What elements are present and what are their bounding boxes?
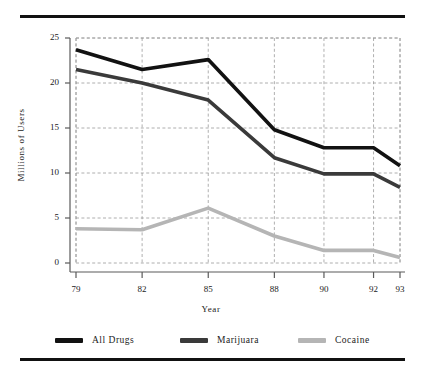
series-lines xyxy=(76,50,400,258)
x-axis-tick-label: 92 xyxy=(362,284,386,294)
legend-label: Cocaine xyxy=(335,335,370,345)
x-axis-tick-label: 85 xyxy=(196,284,220,294)
series-line-marijuara xyxy=(76,70,400,188)
x-axis-tick-label: 82 xyxy=(130,284,154,294)
legend-swatch-icon xyxy=(55,338,83,343)
y-axis-tick-label: 0 xyxy=(37,257,59,267)
chart-legend: All DrugsMarijuaraCocaine xyxy=(55,330,385,350)
series-line-cocaine xyxy=(76,208,400,258)
legend-label: All Drugs xyxy=(92,335,134,345)
x-axis-tick-label: 88 xyxy=(262,284,286,294)
x-axis-tick-label: 90 xyxy=(312,284,336,294)
y-axis-title: Millions of Users xyxy=(16,95,26,195)
y-axis-tick-label: 10 xyxy=(37,167,59,177)
y-axis-tick-label: 25 xyxy=(37,32,59,42)
legend-item-cocaine[interactable]: Cocaine xyxy=(298,330,370,350)
legend-item-all-drugs[interactable]: All Drugs xyxy=(55,330,134,350)
y-axis-tick-label: 15 xyxy=(37,122,59,132)
y-axis-tick-label: 20 xyxy=(37,77,59,87)
legend-swatch-icon xyxy=(180,338,208,343)
axis-lines xyxy=(70,38,405,272)
series-line-all-drugs xyxy=(76,50,400,166)
x-axis-tick-label: 93 xyxy=(388,284,412,294)
line-chart-plot xyxy=(0,0,422,374)
chart-figure: Millions of Users Year 0510152025 798285… xyxy=(0,0,422,374)
y-axis-tick-label: 5 xyxy=(37,212,59,222)
legend-swatch-icon xyxy=(298,338,326,343)
x-axis-tick-label: 79 xyxy=(64,284,88,294)
tick-marks xyxy=(65,38,400,278)
legend-item-marijuara[interactable]: Marijuara xyxy=(180,330,259,350)
legend-label: Marijuara xyxy=(217,335,259,345)
x-axis-title: Year xyxy=(0,304,422,314)
